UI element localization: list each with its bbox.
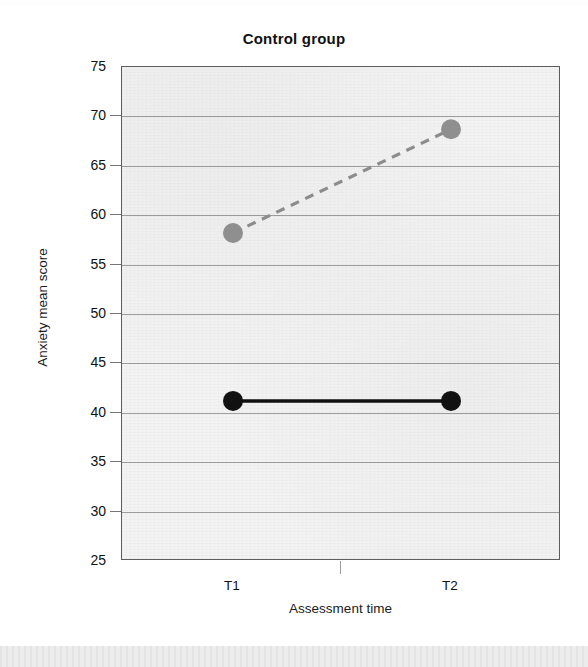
data-point-marker — [441, 391, 461, 411]
data-point-marker — [223, 223, 243, 243]
figure-canvas: Control group Anxiety mean score 75 70 6… — [0, 0, 588, 667]
x-axis-title: Assessment time — [121, 601, 560, 616]
series-layer — [122, 67, 560, 560]
plot-area — [121, 66, 560, 560]
x-tick-label-t1: T1 — [202, 578, 262, 593]
x-axis-center-tick-mark — [340, 561, 341, 574]
data-point-marker — [223, 391, 243, 411]
series-line — [233, 129, 451, 233]
dashed-gray-series — [223, 119, 461, 243]
x-tick-label-t2: T2 — [420, 578, 480, 593]
scan-edge-bottom — [0, 646, 588, 667]
data-point-marker — [441, 119, 461, 139]
solid-black-series — [223, 391, 461, 411]
